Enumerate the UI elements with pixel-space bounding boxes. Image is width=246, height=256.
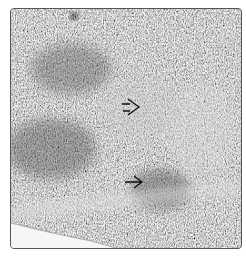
micrograph-frame [10, 8, 242, 249]
micrograph-image [11, 9, 241, 248]
image-caption [0, 0, 246, 7]
